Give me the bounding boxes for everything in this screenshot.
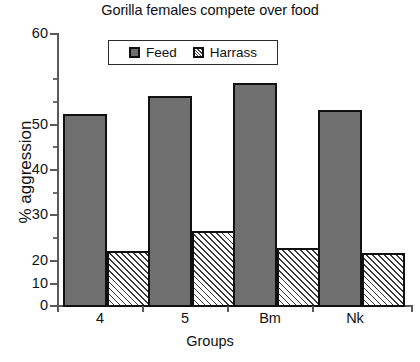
y-axis-line [57, 33, 59, 306]
bar-feed-nk [318, 110, 362, 307]
bar-harrass-bm [277, 248, 320, 307]
y-tick-60 [50, 33, 57, 35]
y-tick-0 [50, 305, 57, 307]
y-tick-label-60: 60 [8, 25, 48, 41]
y-tick-label-0: 0 [8, 297, 48, 313]
x-tick-1 [142, 306, 144, 312]
y-tick-minor-55 [53, 78, 57, 80]
bar-feed-5 [148, 96, 192, 307]
legend-entry-harrass: Harrass [193, 45, 257, 60]
x-tick-2 [227, 306, 229, 312]
x-tick-label-2: Bm [240, 310, 300, 326]
y-tick-minor-45 [53, 101, 57, 103]
y-tick-minor-25 [53, 192, 57, 194]
y-tick-minor-15 [53, 237, 57, 239]
y-tick-label-20: 20 [8, 252, 48, 268]
y-tick-30 [50, 214, 57, 216]
y-tick-20 [50, 260, 57, 262]
chart-legend: Feed Harrass [108, 40, 278, 65]
y-tick-40 [50, 169, 57, 171]
bar-chart: Gorilla females compete over food % aggr… [0, 0, 420, 362]
bar-feed-4 [63, 114, 107, 307]
bar-harrass-5 [192, 231, 235, 307]
y-tick-label-30: 30 [8, 206, 48, 222]
y-tick-10 [50, 283, 57, 285]
bar-harrass-4 [107, 251, 150, 307]
chart-title: Gorilla females compete over food [0, 2, 420, 18]
x-tick-label-3: Nk [325, 310, 385, 326]
y-tick-50 [50, 124, 57, 126]
legend-label-harrass: Harrass [210, 45, 257, 60]
legend-entry-feed: Feed [129, 45, 177, 60]
bar-harrass-nk [362, 253, 405, 307]
y-tick-label-10: 10 [8, 275, 48, 291]
x-axis-label: Groups [0, 333, 420, 349]
bar-feed-bm [233, 83, 277, 307]
y-tick-minor-35 [53, 146, 57, 148]
x-tick-3 [312, 306, 314, 312]
x-tick-label-0: 4 [70, 310, 130, 326]
legend-swatch-harrass-icon [193, 47, 204, 58]
x-tick-start [57, 306, 59, 312]
x-tick-label-1: 5 [155, 310, 215, 326]
y-tick-label-50: 50 [8, 116, 48, 132]
legend-swatch-feed-icon [129, 47, 140, 58]
y-tick-label-40: 40 [8, 161, 48, 177]
x-tick-end [411, 306, 413, 312]
legend-label-feed: Feed [146, 45, 177, 60]
